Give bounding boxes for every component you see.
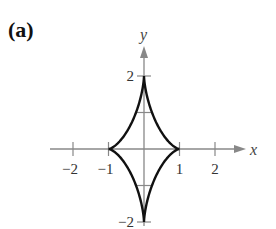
y-axis-arrow-icon bbox=[140, 46, 148, 58]
x-tick-label: −2 bbox=[62, 161, 78, 177]
x-axis-label: x bbox=[249, 141, 257, 158]
x-axis-arrow-icon bbox=[234, 145, 246, 153]
x-tick-label: 1 bbox=[176, 161, 184, 177]
x-tick-label: −1 bbox=[98, 161, 114, 177]
astroid-plot: −2−112−22 x y bbox=[0, 0, 276, 229]
y-axis-label: y bbox=[138, 26, 148, 44]
y-tick-label: 2 bbox=[127, 68, 135, 84]
y-tick-label: −2 bbox=[118, 214, 134, 229]
x-tick-label: 2 bbox=[211, 161, 219, 177]
